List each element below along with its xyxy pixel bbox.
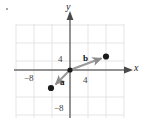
vector-plot-figure: y x 4 −8 −8 4 a b <box>0 0 145 132</box>
vector-a-label: a <box>60 78 65 87</box>
vector-b-endpoint-dot <box>103 53 109 59</box>
y-tick-minus8: −8 <box>54 104 64 113</box>
y-tick-4: 4 <box>58 55 63 64</box>
y-axis-arrowhead <box>67 11 74 20</box>
stray-mark <box>6 8 8 10</box>
origin-dot <box>67 67 72 72</box>
vector-b-label: b <box>83 54 88 63</box>
x-axis-label: x <box>134 63 138 73</box>
y-axis <box>67 11 74 118</box>
x-tick-minus8: −8 <box>24 74 34 83</box>
coordinate-plane-svg <box>0 0 145 132</box>
y-axis-label: y <box>66 2 70 12</box>
vector-a-endpoint-dot <box>48 85 54 91</box>
x-tick-4: 4 <box>83 76 88 85</box>
vector-b <box>70 53 109 70</box>
vector-a <box>48 70 70 91</box>
x-axis-arrowhead <box>124 67 133 74</box>
